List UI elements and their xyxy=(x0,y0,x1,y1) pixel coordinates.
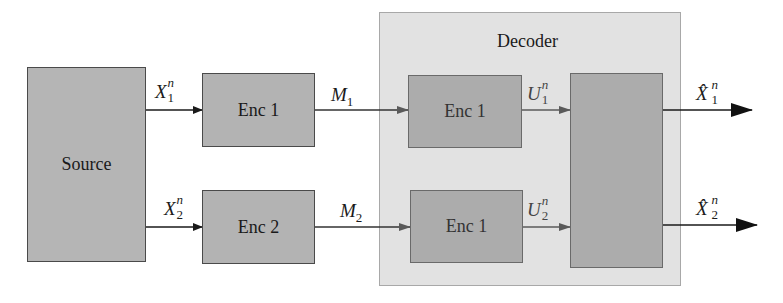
signal-m1: M1 xyxy=(331,85,353,104)
signal-u2n: Un2 xyxy=(527,200,551,220)
decoder-inner-block-1: Enc 1 xyxy=(408,75,522,148)
source-block: Source xyxy=(27,67,146,262)
decoder-inner-2-label: Enc 1 xyxy=(446,216,487,237)
signal-xhat1n: X̂n1 xyxy=(696,84,721,104)
encoder-1-label: Enc 1 xyxy=(238,100,279,121)
signal-x1n: Xn1 xyxy=(155,82,177,102)
decoder-inner-block-2: Enc 1 xyxy=(410,190,523,263)
signal-m2: M2 xyxy=(340,201,362,220)
encoder-1-block: Enc 1 xyxy=(202,73,315,147)
signal-x2n: Xn2 xyxy=(164,199,186,219)
source-label: Source xyxy=(62,154,112,175)
decoder-inner-1-label: Enc 1 xyxy=(444,101,485,122)
encoder-2-block: Enc 2 xyxy=(202,190,315,264)
signal-u1n: Un1 xyxy=(527,84,551,104)
decoder-combiner-block xyxy=(570,73,663,268)
signal-xhat2n: X̂n2 xyxy=(696,199,721,219)
encoder-2-label: Enc 2 xyxy=(238,217,279,238)
